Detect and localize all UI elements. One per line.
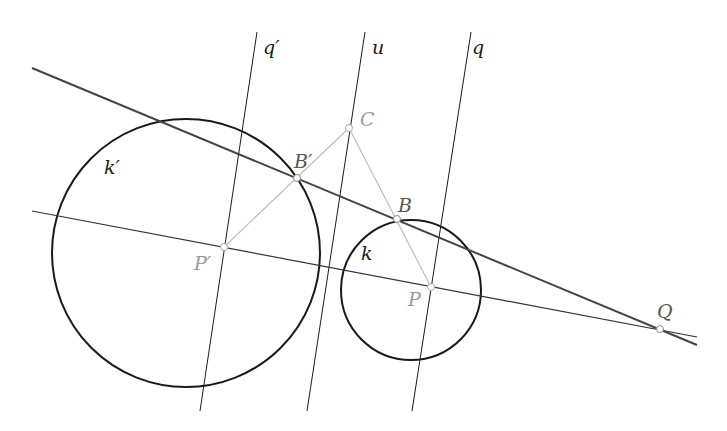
point-p-prime (221, 244, 228, 251)
label-p-prime: P′ (193, 252, 212, 274)
label-q-point: Q (657, 300, 673, 322)
construction-diagram: q′ u q k′ k B′ B C P′ P Q (0, 0, 727, 431)
line-q-prime (200, 32, 257, 411)
label-b-prime: B′ (293, 150, 313, 172)
label-b: B (397, 194, 412, 216)
label-k: k (361, 242, 373, 264)
point-p (428, 284, 435, 291)
point-c (346, 125, 353, 132)
point-q (657, 326, 664, 333)
center-line (32, 211, 697, 337)
label-p: P (407, 288, 422, 310)
label-c: C (360, 108, 375, 130)
label-q: q (472, 36, 484, 58)
segment-p-prime-c (224, 128, 349, 247)
point-b (394, 216, 401, 223)
label-u: u (372, 36, 384, 58)
label-k-prime: k′ (104, 156, 121, 178)
circle-k-prime (52, 119, 320, 387)
label-q-prime: q′ (263, 36, 280, 58)
point-b-prime (294, 175, 301, 182)
